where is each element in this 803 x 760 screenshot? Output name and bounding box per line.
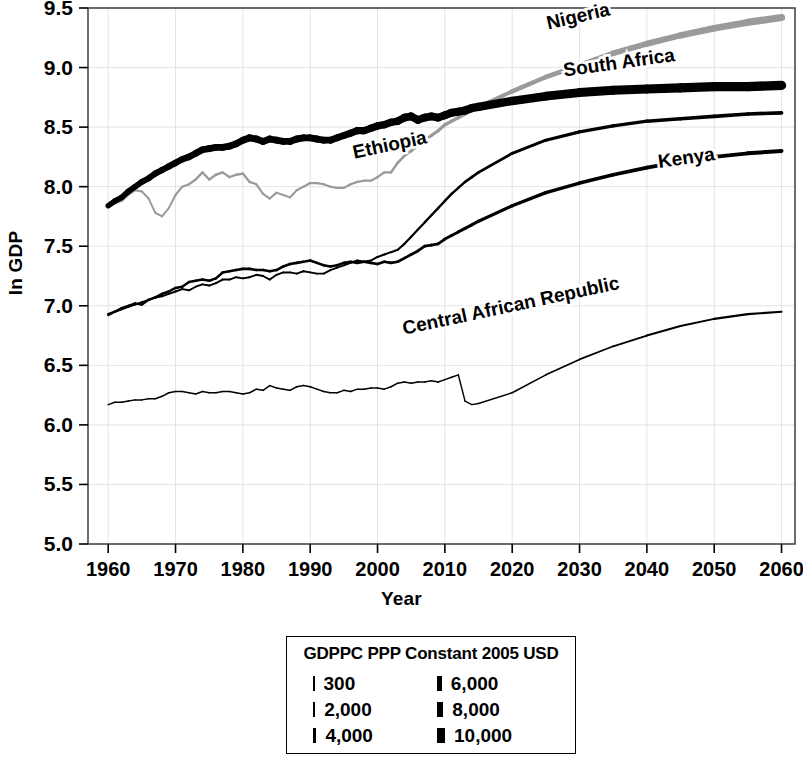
y-tick-label: 7.5 [44,234,74,257]
series-segment [364,388,371,389]
series-segment [229,392,236,393]
series-segment [391,250,398,252]
legend-label: 6,000 [451,674,499,693]
series-segment [425,381,432,382]
series-segment [344,390,351,391]
series-segment [310,387,317,389]
series-segment [479,101,513,107]
series-segment [310,272,317,273]
series-segment [613,121,647,126]
series-segment [142,191,149,198]
series-segment [681,87,715,88]
x-axis-title: Year [0,588,803,610]
legend-swatch [313,728,316,743]
series-segment [398,382,405,383]
legend-item: 4,000 [313,722,437,748]
series-segment [613,89,647,90]
series-segment [142,399,149,400]
legend-label: 2,000 [324,700,372,719]
series-segment [196,392,203,394]
chart-page: NigeriaNigeriaSouth AfricaSouth AfricaEt… [0,0,803,760]
series-segment [384,252,391,254]
y-tick-label: 8.0 [44,175,73,198]
x-tick-label: 2040 [625,558,670,580]
legend-swatch [437,702,443,717]
series-segment [162,208,169,216]
series-segment [216,280,223,284]
series-segment [176,187,183,195]
legend-items: 3006,0002,0008,0004,00010,000 [287,670,575,748]
series-segment [647,88,681,89]
series-segment [290,387,297,391]
series-segment [283,195,290,197]
series-segment [250,389,257,393]
y-tick-label: 5.5 [44,472,74,495]
series-segment [479,393,513,404]
series-segment [216,272,223,278]
y-axis-title: ln GDP [5,223,27,303]
series-segment [681,319,715,326]
series-segment [512,193,546,206]
legend-title: GDPPC PPP Constant 2005 USD [287,644,575,664]
legend-label: 4,000 [325,726,373,745]
series-segment [128,400,135,401]
series-segment [202,392,209,393]
series-segment [209,175,216,180]
legend-item: 2,000 [313,696,437,722]
y-tick-label: 6.0 [44,413,73,436]
legend-item: 10,000 [437,722,561,748]
series-segment [243,174,250,182]
y-tick-label: 8.5 [44,115,74,138]
series-segment [182,392,189,393]
series-segment [324,270,331,274]
series-segment [155,396,162,398]
series-segment [613,336,647,347]
series-segment [196,172,203,179]
series-segment [748,18,782,23]
x-axis: 1960197019801990200020102020203020402050… [86,544,803,580]
series-segment [714,114,748,116]
series-segment [189,287,196,291]
series-segment [404,382,411,383]
series-segment [445,194,452,201]
series-labels: NigeriaNigeriaSouth AfricaSouth AfricaEt… [351,0,717,339]
x-tick-label: 1980 [221,558,266,580]
series-segment [411,382,418,383]
series-segment [391,163,398,173]
series-segment [748,113,782,114]
series-segment [546,359,580,374]
series-segment [580,90,614,92]
series-segment [263,194,270,199]
series-segment [317,389,324,391]
series-segment [425,215,432,222]
legend-swatch [437,728,445,743]
x-tick-label: 1970 [153,558,198,580]
x-tick-label: 1990 [288,558,333,580]
series-segment [256,275,263,276]
x-tick-label: 2000 [355,558,400,580]
series-segment [236,393,243,394]
legend-swatch [313,676,315,691]
series-segment [681,116,715,118]
series-segment [546,93,580,97]
series-segment [216,392,223,393]
series-segment [748,85,782,86]
series-segment [277,388,284,389]
series-segment [458,375,465,401]
series-segment [277,272,284,274]
line-chart-svg: NigeriaNigeriaSouth AfricaSouth AfricaEt… [0,0,803,620]
series-segment [404,237,411,244]
series-segment [122,401,129,402]
series-segment [647,119,681,121]
series-segment [418,222,425,229]
series-segment [472,403,479,404]
chart-plot-area: NigeriaNigeriaSouth AfricaSouth AfricaEt… [0,0,803,620]
legend-label: 300 [324,674,356,693]
legend: GDPPC PPP Constant 2005 USD 3006,0002,00… [286,636,576,754]
y-tick-label: 7.0 [44,294,73,317]
series-segment [303,386,310,387]
series-segment [149,199,156,213]
series-segment [337,390,344,392]
series-segment [263,386,270,391]
series-segment [135,190,142,191]
